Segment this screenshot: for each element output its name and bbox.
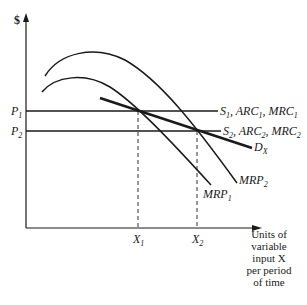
y-axis-arrow-icon <box>23 13 29 22</box>
price-label-2: P2 <box>10 124 22 140</box>
svg-text:of time: of time <box>253 276 285 288</box>
quantity-label-2: X2 <box>191 232 203 248</box>
mrp2-curve <box>45 52 237 183</box>
svg-text:per period: per period <box>247 264 292 276</box>
svg-text:Units of: Units of <box>251 228 287 240</box>
quantity-label-1: X1 <box>132 232 144 248</box>
y-axis-label: $ <box>14 13 20 27</box>
price-label-1: P1 <box>10 104 22 120</box>
svg-text:input X: input X <box>252 252 285 264</box>
input-demand-diagram: $ P1 P2 S1, ARC1, MRC1 S2, ARC2, MRC2 DX… <box>0 0 307 305</box>
supply-label-1: S1, ARC1, MRC1 <box>220 104 298 120</box>
demand-label: DX <box>253 140 269 156</box>
mrp1-label: MRP1 <box>202 187 232 203</box>
mrp2-label: MRP2 <box>238 173 268 189</box>
x-axis-label: Units of variable input X per period of … <box>247 228 292 288</box>
svg-text:variable: variable <box>251 240 287 252</box>
supply-label-2: S2, ARC2, MRC2 <box>223 124 301 140</box>
